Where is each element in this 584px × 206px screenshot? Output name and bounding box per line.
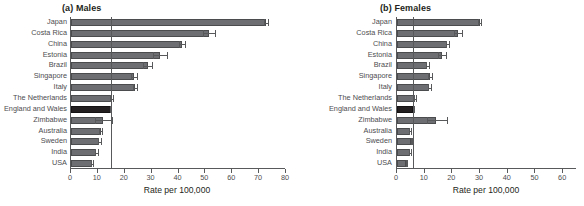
- bar: [71, 30, 209, 37]
- confidence-interval-cap: [478, 19, 479, 26]
- confidence-interval-cap: [112, 117, 113, 124]
- bar-row: [397, 28, 576, 39]
- bar: [397, 52, 442, 59]
- x-tick: [258, 169, 259, 173]
- x-tick: [70, 169, 71, 173]
- panel-a-plot-area: [70, 17, 285, 169]
- confidence-interval-cap: [152, 62, 153, 69]
- confidence-interval-cap: [428, 84, 429, 91]
- confidence-interval-cap: [113, 95, 114, 102]
- category-label: Singapore: [359, 71, 392, 82]
- bar-row: [397, 126, 576, 137]
- confidence-interval-cap: [411, 149, 412, 156]
- panel-b-title: (b) Females: [380, 3, 431, 13]
- x-tick: [479, 169, 480, 173]
- panel-b-reference-line: [413, 17, 414, 168]
- category-label: Japan: [372, 17, 392, 28]
- x-tick-label: 10: [93, 173, 101, 182]
- confidence-interval-cap: [411, 128, 412, 135]
- x-tick-label: 60: [558, 173, 566, 182]
- panel-a-x-axis-title: Rate per 100,000: [144, 185, 210, 195]
- x-tick: [178, 169, 179, 173]
- bar: [397, 128, 410, 135]
- category-label: Brazil: [374, 60, 392, 71]
- bar: [71, 19, 266, 26]
- bar: [71, 95, 112, 102]
- bar: [71, 41, 182, 48]
- confidence-interval-cap: [99, 128, 100, 135]
- bar-row: [397, 39, 576, 50]
- confidence-interval-cap: [95, 149, 96, 156]
- x-tick-label: 60: [227, 173, 235, 182]
- x-tick-label: 70: [254, 173, 262, 182]
- category-label: Australia: [39, 126, 67, 137]
- confidence-interval-cap: [153, 52, 154, 59]
- bar-row: [397, 158, 576, 169]
- confidence-interval-cap: [167, 52, 168, 59]
- x-tick: [507, 169, 508, 173]
- bar-row: [397, 60, 576, 71]
- bar-row: [71, 39, 285, 50]
- bar-row: [71, 17, 285, 28]
- panel-a-x-axis: 01020304050607080: [70, 169, 285, 173]
- panel-b-bars: [397, 17, 576, 168]
- confidence-interval-cap: [432, 73, 433, 80]
- category-label: Sweden: [41, 136, 67, 147]
- x-tick: [534, 169, 535, 173]
- bar: [397, 30, 458, 37]
- category-label: USA: [377, 158, 392, 169]
- panel-females: (b) Females JapanCosta RicaChinaEstoniaB…: [292, 0, 584, 206]
- confidence-interval-cap: [98, 138, 99, 145]
- panel-b-x-axis-title: Rate per 100,000: [453, 185, 519, 195]
- category-label: The Netherlands: [338, 93, 392, 104]
- bar: [71, 73, 134, 80]
- category-label: Costa Rica: [356, 28, 392, 39]
- x-tick-label: 0: [394, 173, 398, 182]
- bar-row: [397, 82, 576, 93]
- category-label: Singapore: [34, 71, 67, 82]
- panel-b-plot-area: [396, 17, 576, 169]
- category-label: Zimbabwe: [358, 115, 392, 126]
- x-tick-label: 80: [281, 173, 289, 182]
- bar: [397, 106, 413, 113]
- x-tick-label: 20: [120, 173, 128, 182]
- x-tick-label: 50: [530, 173, 538, 182]
- category-label: England and Wales: [329, 104, 392, 115]
- x-tick-label: 50: [200, 173, 208, 182]
- category-label: China: [373, 39, 392, 50]
- bar-row: [71, 71, 285, 82]
- confidence-interval-cap: [264, 19, 265, 26]
- confidence-interval-cap: [93, 160, 94, 167]
- x-tick-label: 30: [147, 173, 155, 182]
- confidence-interval-cap: [446, 41, 447, 48]
- confidence-interval-cap: [438, 52, 439, 59]
- panel-b-x-axis: 0102030405060: [396, 169, 576, 173]
- bar-row: [71, 82, 285, 93]
- bar: [397, 95, 414, 102]
- confidence-interval: [143, 66, 152, 67]
- panel-a-title: (a) Males: [62, 3, 101, 13]
- bar-row: [71, 28, 285, 39]
- confidence-interval-cap: [426, 62, 427, 69]
- confidence-interval-cap: [102, 128, 103, 135]
- bar-row: [71, 50, 285, 61]
- confidence-interval-cap: [407, 160, 408, 167]
- confidence-interval-cap: [143, 62, 144, 69]
- category-label: The Netherlands: [13, 93, 67, 104]
- x-tick-label: 40: [173, 173, 181, 182]
- category-label: Italy: [54, 82, 67, 93]
- confidence-interval: [427, 120, 446, 121]
- confidence-interval-cap: [268, 19, 269, 26]
- bar: [71, 84, 135, 91]
- x-tick: [396, 169, 397, 173]
- category-label: Estonia: [43, 50, 67, 61]
- category-label: England and Wales: [4, 104, 67, 115]
- confidence-interval-cap: [446, 52, 447, 59]
- confidence-interval-cap: [447, 117, 448, 124]
- bar-row: [397, 136, 576, 147]
- confidence-interval: [95, 120, 112, 121]
- bar: [397, 149, 410, 156]
- confidence-interval-cap: [137, 84, 138, 91]
- x-tick: [285, 169, 286, 173]
- confidence-interval-cap: [133, 84, 134, 91]
